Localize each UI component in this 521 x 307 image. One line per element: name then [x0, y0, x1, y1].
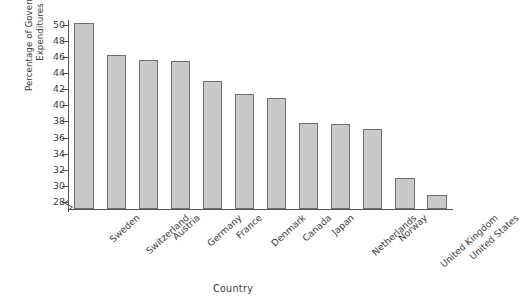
bar-norway — [363, 129, 382, 209]
x-tick-label-japan: Japan — [329, 212, 355, 237]
bar-united-states — [427, 195, 446, 209]
y-tick-label: 42 — [53, 83, 65, 94]
y-tick-label: 48 — [53, 35, 65, 46]
x-axis-title: Country — [0, 283, 466, 294]
bar-germany — [171, 61, 190, 209]
y-tick-label: 40 — [53, 99, 65, 110]
y-tick-label: 34 — [53, 148, 65, 159]
y-tick-label: 46 — [53, 51, 65, 62]
y-tick-label: 28 — [53, 196, 65, 207]
plot-area: 283032343638404244464850 — [68, 20, 453, 210]
bar-france — [203, 81, 222, 209]
bar-netherlands — [331, 124, 350, 209]
bar-canada — [267, 98, 286, 209]
bar-denmark — [235, 94, 254, 209]
y-tick-label: 38 — [53, 115, 65, 126]
bar-austria — [139, 60, 158, 209]
y-tick-label: 50 — [53, 19, 65, 30]
bar-sweden — [74, 23, 93, 209]
bar-japan — [299, 123, 318, 209]
x-axis-line — [68, 209, 453, 210]
x-tick-label-denmark: Denmark — [269, 212, 308, 248]
bar-switzerland — [107, 55, 126, 209]
x-tick-label-sweden: Sweden — [107, 212, 141, 244]
y-tick-label: 44 — [53, 67, 65, 78]
y-axis-title: Percentage of Government Expenditures — [17, 0, 53, 127]
y-axis-line — [68, 20, 69, 210]
y-tick-label: 30 — [53, 180, 65, 191]
bar-united-kingdom — [395, 178, 414, 209]
y-tick-label: 36 — [53, 132, 65, 143]
x-tick-label-group: SwedenSwitzerlandAustriaGermanyFranceDen… — [68, 212, 453, 282]
y-tick-label: 32 — [53, 164, 65, 175]
